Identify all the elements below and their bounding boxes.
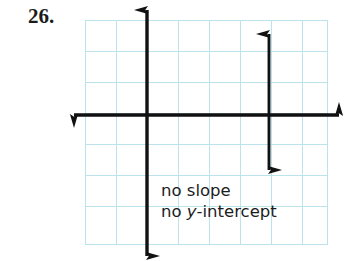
graph-svg [0, 0, 355, 261]
worksheet-problem-canvas: 26. [0, 0, 355, 261]
graph-grid [85, 20, 328, 245]
coordinate-plane-figure [0, 0, 355, 261]
